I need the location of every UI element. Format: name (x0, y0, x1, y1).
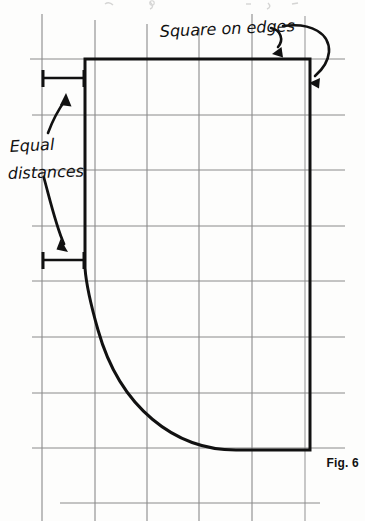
annotation-equal-distances-line1: Equal (9, 135, 55, 156)
page-bleed-marks (105, 1, 298, 9)
figure-canvas: Square on edges Equal distances Fig. 6 (0, 0, 365, 521)
dimension-marker-upper (43, 70, 84, 87)
technical-drawing-svg: Square on edges Equal distances (0, 0, 365, 521)
outline-path (85, 59, 310, 450)
arrow-down-to-lower-marker (44, 178, 68, 252)
figure-caption: Fig. 6 (326, 456, 359, 470)
annotation-square-on-edges: Square on edges (159, 16, 295, 41)
grid-vertical-lines (42, 14, 305, 521)
annotation-equal-distances-line2: distances (7, 161, 84, 183)
dimension-marker-lower (43, 252, 84, 269)
grid-horizontal-lines (30, 59, 345, 503)
arrow-up-to-upper-marker (48, 93, 72, 133)
profile-outline (85, 59, 310, 450)
construction-grid (30, 14, 345, 521)
